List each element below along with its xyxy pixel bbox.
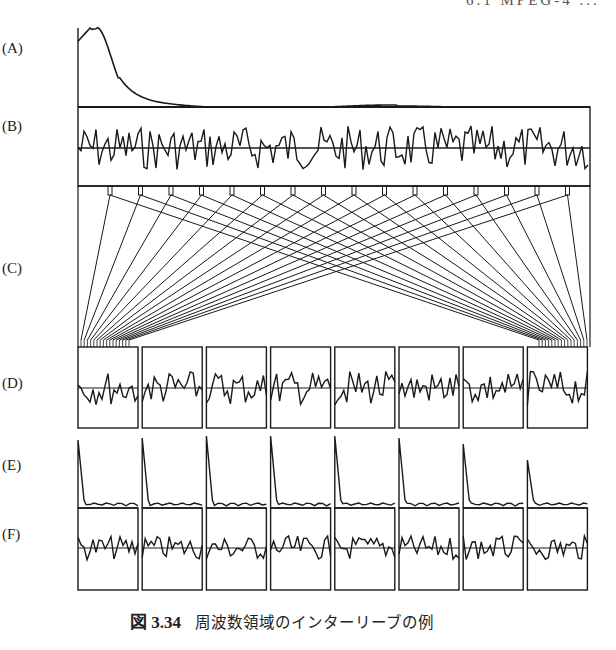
figure-number: 図 3.34 [130,613,181,632]
figure-title: 周波数領域のインターリーブの例 [195,614,434,632]
waveform-b [78,107,590,186]
spectral-envelope-a [78,28,590,107]
spikes-e [78,436,587,508]
interleave-diagram [0,0,616,650]
subblocks-f [78,508,587,590]
figure-caption: 図 3.34周波数領域のインターリーブの例 [130,608,550,633]
subblocks-d [78,347,587,428]
interleave-lines-c [78,186,590,347]
